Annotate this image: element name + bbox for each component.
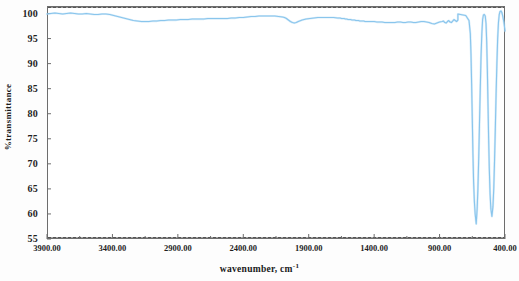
x-tick-label: 3900.00 bbox=[19, 243, 75, 253]
y-tick-label: 60 bbox=[4, 208, 38, 219]
x-tick-label: 2900.00 bbox=[150, 243, 206, 253]
transmittance-curve bbox=[47, 11, 505, 224]
x-tick-label: 1400.00 bbox=[346, 243, 402, 253]
y-tick-label: 95 bbox=[4, 33, 38, 44]
x-axis-title-text: wavenumber, cm bbox=[220, 264, 293, 274]
x-tick-label: 1900.00 bbox=[281, 243, 337, 253]
x-tick-label: 3400.00 bbox=[84, 243, 140, 253]
x-tick-label: 900.00 bbox=[412, 243, 468, 253]
x-tick-label: 2400.00 bbox=[215, 243, 271, 253]
x-tick-label: 400.00 bbox=[477, 243, 519, 253]
y-axis-title: %transmittance bbox=[3, 65, 13, 169]
y-axis-ticks bbox=[47, 14, 51, 239]
ir-spectrum-figure: 100959085807570656055 3900.003400.002900… bbox=[0, 0, 519, 281]
y-tick-label: 100 bbox=[4, 8, 38, 19]
x-axis-ticks bbox=[47, 234, 505, 239]
spectrum-canvas bbox=[0, 0, 519, 281]
x-axis-title-superscript: -1 bbox=[293, 262, 299, 270]
y-tick-label: 65 bbox=[4, 183, 38, 194]
transmittance-curve-halo bbox=[47, 11, 505, 224]
x-axis-title: wavenumber, cm-1 bbox=[0, 262, 519, 274]
